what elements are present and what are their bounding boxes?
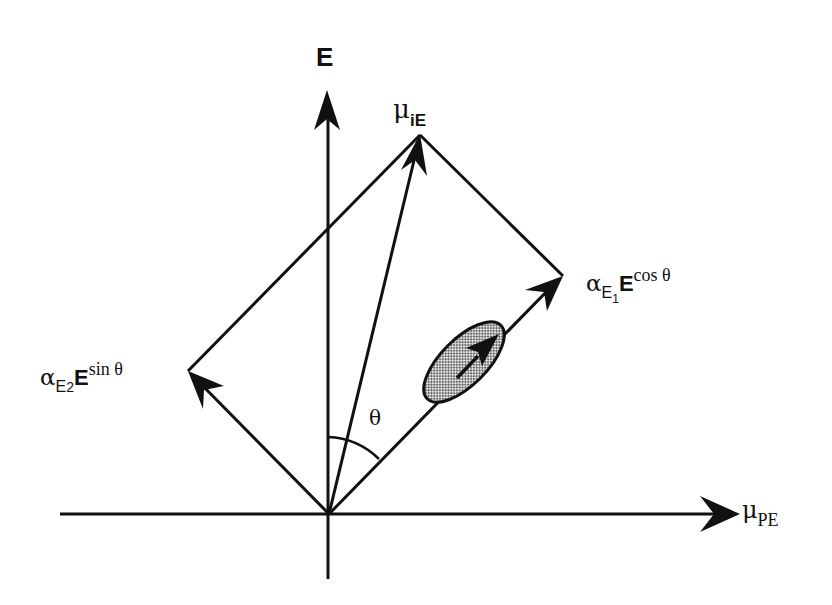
cos-theta: cos θ [634,265,671,285]
alpha-subscript: E [602,284,613,301]
field-symbol: E [74,365,89,390]
vector-component-2 [188,371,329,514]
sin-theta: sin θ [89,359,123,379]
alpha-symbol: α [586,270,602,296]
angle-arc [328,437,379,459]
molecule-ellipse [411,309,517,415]
angle-label: θ [369,408,381,428]
horizontal-axis [60,496,740,532]
vector-parallelogram [188,135,563,371]
alpha-subscript-index: 2 [66,379,74,395]
horizontal-axis-label: μPE [742,498,779,522]
alpha-symbol: α [40,364,56,390]
mu-symbol: μ [393,94,410,124]
mu-symbol: μ [742,496,758,524]
diagram-canvas [0,0,832,605]
resultant-label: μiE [393,96,426,123]
component-1-label: αE1Ecos θ [586,272,671,295]
vertical-axis-label: E [316,44,333,70]
component-2-label: αE2Esin θ [40,366,123,389]
alpha-subscript: E [56,378,67,395]
field-symbol: E [619,271,634,296]
dipole-vector-diagram: E μiE αE1Ecos θ αE2Esin θ θ μPE [0,0,832,605]
resultant-subscript: iE [410,111,426,130]
horizontal-axis-subscript: PE [758,510,779,530]
alpha-subscript-index: 1 [612,292,619,306]
